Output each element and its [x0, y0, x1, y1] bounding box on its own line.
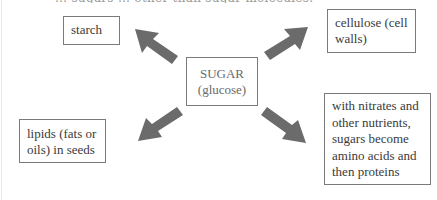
node-cellulose-line-2: walls): [335, 31, 415, 47]
arrow-down-left-icon: [138, 107, 183, 141]
node-proteins: with nitrates and other nutrients, sugar…: [324, 93, 431, 185]
node-cellulose: cellulose (cell walls): [327, 9, 416, 53]
arrow-down-right-icon: [261, 107, 306, 143]
node-proteins-line-3: sugars become: [332, 131, 430, 148]
node-starch: starch: [63, 16, 120, 45]
node-cellulose-line-1: cellulose (cell: [335, 15, 415, 31]
node-proteins-line-2: other nutrients,: [332, 115, 430, 132]
node-starch-line-1: starch: [71, 22, 119, 38]
node-lipids-line-2: oils) in seeds: [27, 142, 105, 158]
node-proteins-line-5: then proteins: [332, 164, 430, 181]
arrow-up-left-icon: [135, 29, 178, 64]
node-sugar-center: SUGAR (glucose): [186, 57, 258, 106]
arrow-up-right-icon: [264, 27, 308, 60]
center-label-line-2: (glucose): [187, 82, 257, 98]
node-proteins-line-1: with nitrates and: [332, 98, 430, 115]
node-proteins-line-4: amino acids and: [332, 148, 430, 165]
center-label-line-1: SUGAR: [187, 66, 257, 82]
node-lipids: lipids (fats or oils) in seeds: [19, 119, 106, 163]
node-lipids-line-1: lipids (fats or: [27, 126, 105, 142]
